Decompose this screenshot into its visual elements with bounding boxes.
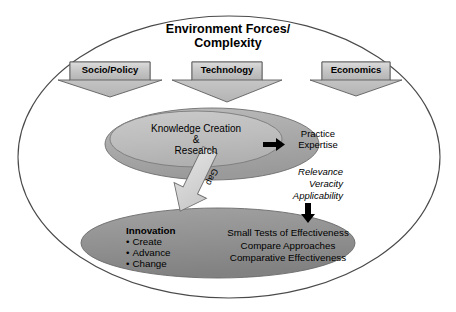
effectiveness-line-1: Small Tests of Effectiveness [208,227,368,240]
criteria-line-1: Relevance [233,166,343,178]
page-title: Environment Forces/ Complexity [0,22,456,50]
practice-line-2: Expertise [283,140,353,151]
criteria-text: Relevance Veracity Applicability [233,166,343,202]
criteria-line-2: Veracity [233,178,343,190]
effectiveness-line-3: Comparative Effectiveness [208,252,368,265]
knowledge-line-3: Research [116,145,276,156]
title-line-2: Complexity [0,36,456,50]
banner-label-socio-policy[interactable]: Socio/Policy [70,65,150,76]
banner-label-technology[interactable]: Technology [192,65,262,76]
title-line-1: Environment Forces/ [0,22,456,36]
knowledge-creation-text: Knowledge Creation & Research [116,123,276,157]
knowledge-line-1: Knowledge Creation [116,123,276,134]
effectiveness-text: Small Tests of Effectiveness Compare App… [208,227,368,265]
criteria-line-3: Applicability [233,190,343,202]
diagram-canvas: Environment Forces/ Complexity Socio/Pol… [0,0,456,312]
banner-label-economics[interactable]: Economics [322,65,390,76]
practice-expertise-text: Practice Expertise [283,129,353,150]
effectiveness-line-2: Compare Approaches [208,240,368,253]
knowledge-line-2: & [116,134,276,145]
